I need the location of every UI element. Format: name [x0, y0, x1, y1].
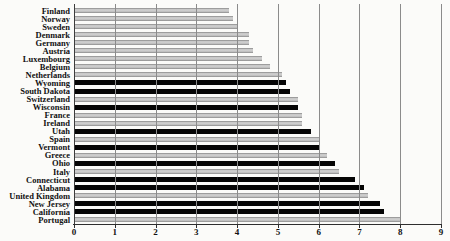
- bar-ireland: [74, 121, 302, 126]
- gridline-5: [278, 4, 279, 224]
- bar-south-dakota: [74, 89, 290, 94]
- bar-denmark: [74, 32, 249, 37]
- x-tick-label-5: 5: [268, 227, 288, 237]
- x-tick-mark-2: [156, 224, 157, 228]
- x-tick-mark-1: [115, 224, 116, 228]
- x-tick-label-3: 3: [186, 227, 206, 237]
- bar-utah: [74, 129, 311, 134]
- bar-luxembourg: [74, 56, 262, 61]
- bar-wisconsin: [74, 105, 298, 110]
- x-tick-label-1: 1: [105, 227, 125, 237]
- bar-belgium: [74, 64, 270, 69]
- x-axis-line: [73, 224, 442, 225]
- x-tick-label-0: 0: [64, 227, 84, 237]
- gridline-3: [196, 4, 197, 224]
- x-tick-mark-6: [319, 224, 320, 228]
- gridline-4: [237, 4, 238, 224]
- gridline-7: [359, 4, 360, 224]
- category-label-portugal: Portugal: [0, 216, 70, 224]
- x-tick-label-6: 6: [309, 227, 329, 237]
- bar-france: [74, 113, 302, 118]
- gridline-8: [400, 4, 401, 224]
- gridline-2: [156, 4, 157, 224]
- bar-switzerland: [74, 97, 298, 102]
- gridline-9: [441, 4, 442, 224]
- x-tick-label-2: 2: [146, 227, 166, 237]
- y-axis-line: [74, 4, 75, 224]
- gridline-6: [319, 4, 320, 224]
- bar-greece: [74, 153, 327, 158]
- x-tick-mark-0: [74, 224, 75, 228]
- bar-austria: [74, 48, 253, 53]
- gridline-1: [115, 4, 116, 224]
- x-tick-label-8: 8: [390, 227, 410, 237]
- x-tick-mark-5: [278, 224, 279, 228]
- bar-alabama: [74, 185, 364, 190]
- bar-california: [74, 209, 384, 214]
- x-tick-label-4: 4: [227, 227, 247, 237]
- x-tick-label-7: 7: [349, 227, 369, 237]
- bar-connecticut: [74, 177, 355, 182]
- x-tick-mark-9: [441, 224, 442, 228]
- bar-norway: [74, 16, 233, 21]
- x-tick-mark-4: [237, 224, 238, 228]
- bar-ohio: [74, 161, 335, 166]
- bar-germany: [74, 40, 249, 45]
- bar-wyoming: [74, 80, 286, 85]
- bar-new-jersey: [74, 201, 380, 206]
- bar-italy: [74, 169, 339, 174]
- bar-united-kingdom: [74, 193, 368, 198]
- bar-netherlands: [74, 72, 282, 77]
- bar-finland: [74, 8, 229, 13]
- x-tick-mark-3: [196, 224, 197, 228]
- bar-chart: FinlandNorwaySwedenDenmarkGermanyAustria…: [0, 0, 450, 241]
- x-tick-label-9: 9: [431, 227, 450, 237]
- x-tick-mark-7: [359, 224, 360, 228]
- x-tick-mark-8: [400, 224, 401, 228]
